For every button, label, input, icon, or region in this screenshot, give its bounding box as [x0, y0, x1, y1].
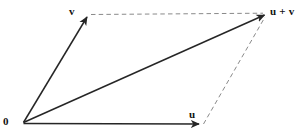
label-vector-u-plus-v: u + v	[270, 6, 294, 17]
vector-addition-figure: 0 v u u + v	[0, 0, 306, 133]
label-origin: 0	[3, 116, 9, 127]
dashed-line-v-to-sum	[91, 13, 263, 14]
figure-canvas	[0, 0, 306, 133]
label-vector-v: v	[69, 6, 75, 17]
label-vector-u: u	[189, 109, 195, 120]
vector-v-line	[24, 17, 88, 123]
vector-u-line	[24, 124, 200, 125]
vector-u-plus-v-line	[24, 15, 265, 123]
dashed-line-u-to-sum	[204, 17, 266, 124]
